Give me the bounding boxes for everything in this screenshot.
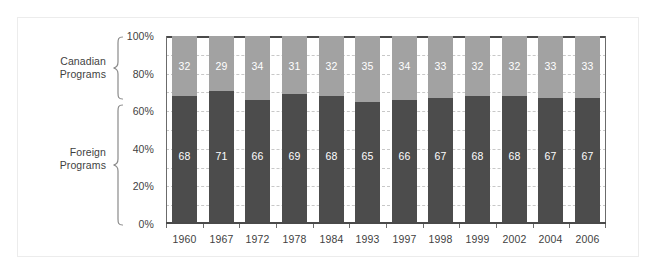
bar-segment-foreign[interactable]: 69 — [282, 94, 307, 224]
plot-area: 3268297134663169326835653466336732683268… — [166, 36, 606, 224]
bar-segment-canadian[interactable]: 33 — [428, 36, 453, 98]
bar-column[interactable]: 3367 — [538, 36, 563, 224]
x-axis-label: 1997 — [385, 233, 425, 245]
chart-screenshot: Canadian Programs Foreign Programs 100% … — [0, 0, 656, 273]
bar-column[interactable]: 3367 — [428, 36, 453, 224]
x-axis-label: 2002 — [495, 233, 535, 245]
bar-segment-canadian[interactable]: 34 — [392, 36, 417, 100]
x-axis-tick — [203, 224, 204, 228]
bar-value-canadian: 33 — [575, 60, 600, 72]
y-axis-tick-0: 0% — [112, 218, 154, 230]
x-axis-tick — [423, 224, 424, 228]
bar-value-canadian: 32 — [465, 60, 490, 72]
y-axis-tick-80: 80% — [112, 68, 154, 80]
bracket-label-canadian: Canadian Programs — [34, 55, 106, 80]
bar-value-canadian: 32 — [319, 60, 344, 72]
bar-column[interactable]: 3268 — [319, 36, 344, 224]
bar-segment-canadian[interactable]: 32 — [502, 36, 527, 96]
x-axis-label: 1993 — [348, 233, 388, 245]
bar-segment-canadian[interactable]: 32 — [465, 36, 490, 96]
bar-value-foreign: 67 — [538, 150, 563, 162]
x-axis-label: 1960 — [165, 233, 205, 245]
bar-value-canadian: 32 — [502, 60, 527, 72]
x-axis-label: 2004 — [531, 233, 571, 245]
x-axis-tick — [605, 224, 606, 228]
x-axis-tick — [459, 224, 460, 228]
x-axis-tick — [276, 224, 277, 228]
bar-value-foreign: 66 — [245, 150, 270, 162]
bar-segment-foreign[interactable]: 65 — [355, 102, 380, 224]
bar-column[interactable]: 3367 — [575, 36, 600, 224]
bar-segment-canadian[interactable]: 32 — [172, 36, 197, 96]
bar-value-canadian: 31 — [282, 60, 307, 72]
bar-value-canadian: 32 — [172, 60, 197, 72]
x-axis-label: 1999 — [458, 233, 498, 245]
x-axis-label: 1967 — [202, 233, 242, 245]
bar-column[interactable]: 3466 — [392, 36, 417, 224]
axis-right-line — [605, 36, 606, 224]
bar-column[interactable]: 3268 — [465, 36, 490, 224]
bar-segment-foreign[interactable]: 67 — [428, 98, 453, 224]
bracket-label-foreign-line1: Foreign — [34, 146, 106, 159]
bar-value-foreign: 68 — [465, 150, 490, 162]
x-axis-label: 1978 — [275, 233, 315, 245]
bar-value-canadian: 33 — [428, 60, 453, 72]
axis-left-line — [166, 36, 167, 224]
bracket-label-foreign: Foreign Programs — [34, 146, 106, 171]
x-axis-label: 1972 — [238, 233, 278, 245]
y-axis-tick-20: 20% — [112, 180, 154, 192]
bar-segment-foreign[interactable]: 71 — [209, 91, 234, 224]
x-axis-label: 1998 — [421, 233, 461, 245]
bar-value-canadian: 33 — [538, 60, 563, 72]
bar-column[interactable]: 2971 — [209, 36, 234, 224]
bar-value-foreign: 67 — [575, 150, 600, 162]
y-axis-tick-60: 60% — [112, 105, 154, 117]
bar-value-canadian: 35 — [355, 60, 380, 72]
y-axis-tick-40: 40% — [112, 143, 154, 155]
x-axis-label: 2006 — [568, 233, 608, 245]
bar-segment-canadian[interactable]: 31 — [282, 36, 307, 94]
bar-value-foreign: 65 — [355, 150, 380, 162]
bar-value-canadian: 29 — [209, 60, 234, 72]
bar-segment-canadian[interactable]: 32 — [319, 36, 344, 96]
bar-value-canadian: 34 — [245, 60, 270, 72]
bar-segment-foreign[interactable]: 68 — [319, 96, 344, 224]
y-axis-tick-100: 100% — [112, 30, 154, 42]
bar-segment-canadian[interactable]: 33 — [538, 36, 563, 98]
x-axis-tick — [166, 224, 167, 228]
bar-segment-foreign[interactable]: 67 — [575, 98, 600, 224]
bar-segment-foreign[interactable]: 68 — [502, 96, 527, 224]
bracket-label-canadian-line1: Canadian — [34, 55, 106, 68]
bar-segment-canadian[interactable]: 34 — [245, 36, 270, 100]
x-axis-tick — [313, 224, 314, 228]
x-axis-tick — [569, 224, 570, 228]
bar-value-foreign: 67 — [428, 150, 453, 162]
bar-segment-canadian[interactable]: 33 — [575, 36, 600, 98]
bar-value-foreign: 68 — [172, 150, 197, 162]
bar-segment-foreign[interactable]: 68 — [465, 96, 490, 224]
x-axis-tick — [386, 224, 387, 228]
bar-value-foreign: 69 — [282, 150, 307, 162]
bar-segment-foreign[interactable]: 68 — [172, 96, 197, 224]
bar-segment-foreign[interactable]: 67 — [538, 98, 563, 224]
x-axis-tick — [349, 224, 350, 228]
curly-brace-foreign-icon — [112, 104, 124, 226]
bar-value-canadian: 34 — [392, 60, 417, 72]
x-axis-label: 1984 — [312, 233, 352, 245]
bar-segment-canadian[interactable]: 35 — [355, 36, 380, 102]
bracket-label-foreign-line2: Programs — [34, 159, 106, 172]
bar-segment-foreign[interactable]: 66 — [245, 100, 270, 224]
bar-value-foreign: 68 — [319, 150, 344, 162]
x-axis-tick — [239, 224, 240, 228]
x-axis-tick — [533, 224, 534, 228]
bar-column[interactable]: 3565 — [355, 36, 380, 224]
bar-segment-canadian[interactable]: 29 — [209, 36, 234, 91]
bar-column[interactable]: 3169 — [282, 36, 307, 224]
bar-column[interactable]: 3268 — [502, 36, 527, 224]
bar-column[interactable]: 3466 — [245, 36, 270, 224]
bar-value-foreign: 71 — [209, 150, 234, 162]
bar-value-foreign: 66 — [392, 150, 417, 162]
bar-value-foreign: 68 — [502, 150, 527, 162]
bar-column[interactable]: 3268 — [172, 36, 197, 224]
bar-segment-foreign[interactable]: 66 — [392, 100, 417, 224]
